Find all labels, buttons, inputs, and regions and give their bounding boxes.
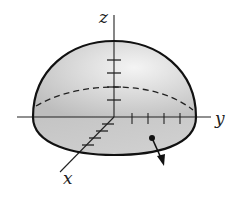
hemisphere-base [33,117,196,155]
y-axis-label: y [214,108,225,128]
z-axis-label: z [98,7,109,27]
x-axis-label: x [63,168,73,188]
hemisphere-diagram: z y x [0,0,241,208]
